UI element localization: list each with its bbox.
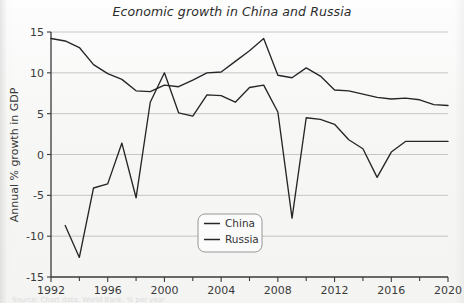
y-tick-label: -10	[26, 230, 44, 243]
x-tick-label: 2008	[264, 284, 292, 297]
gridline-group	[51, 32, 448, 236]
y-tick-label: 5	[37, 108, 44, 121]
x-tick-label: 2012	[321, 284, 349, 297]
x-tick-group: 19921996200020042008201220162020	[37, 277, 462, 297]
figure-caption: Source: Chart data, World Bank, % per ye…	[12, 296, 165, 303]
y-tick-label: -5	[33, 189, 44, 202]
y-tick-label: 0	[37, 149, 44, 162]
x-tick-label: 2004	[207, 284, 235, 297]
series-line-china	[51, 39, 448, 106]
y-tick-label: 10	[30, 67, 44, 80]
y-tick-label: 15	[30, 26, 44, 39]
chart-page: Economic growth in China and Russia 1510…	[0, 0, 464, 303]
line-chart-plot: 151050-5-10-15 1992199620002004200820122…	[0, 0, 464, 303]
y-tick-label: -15	[26, 271, 44, 284]
y-tick-group: 151050-5-10-15	[26, 26, 51, 284]
legend-label-russia[interactable]: Russia	[225, 233, 259, 245]
y-axis-title: Annual % growth in GDP	[8, 87, 21, 222]
y-axis-label-text: Annual % growth in GDP	[8, 87, 21, 222]
x-tick-label: 2020	[434, 284, 462, 297]
chart-legend[interactable]: ChinaRussia	[198, 214, 262, 252]
legend-label-china[interactable]: China	[225, 217, 255, 229]
x-tick-label: 2016	[377, 284, 405, 297]
